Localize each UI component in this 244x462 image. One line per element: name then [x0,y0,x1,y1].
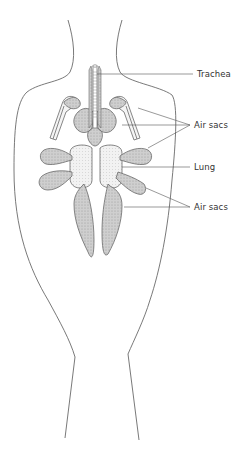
left-lung [70,145,92,188]
lungs [70,145,122,188]
anterior-thoracic-sacs [40,148,151,164]
label-air-sacs-upper: Air sacs [194,121,228,130]
label-lung: Lung [194,163,215,172]
label-trachea: Trachea [197,70,231,79]
label-air-sacs-lower: Air sacs [194,203,228,212]
bird-respiratory-diagram: Trachea Air sacs Lung Air sacs [0,0,244,462]
abdominal-air-sacs [74,184,122,257]
right-lung [100,145,122,188]
